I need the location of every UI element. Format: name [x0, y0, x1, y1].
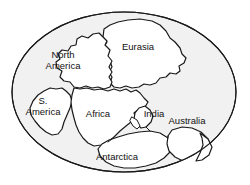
pangaea-map-svg: [0, 0, 250, 185]
pangaea-map-figure: Eurasia North America S. America Africa …: [0, 0, 250, 185]
